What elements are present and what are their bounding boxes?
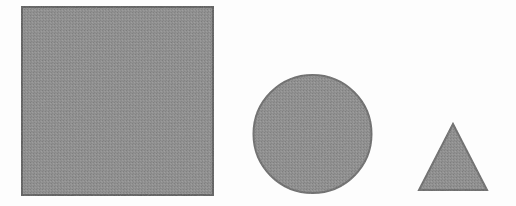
circle-shape	[254, 75, 372, 193]
shape-circle	[254, 75, 372, 193]
shapes-canvas	[0, 0, 516, 206]
square-shape	[22, 7, 213, 195]
shapes-figure	[0, 0, 516, 206]
shape-square	[22, 7, 213, 195]
